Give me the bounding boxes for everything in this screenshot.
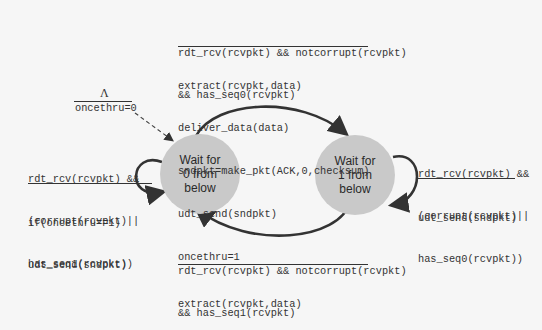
action-line: udt_send(sndpkt) [418, 211, 517, 225]
left-self-loop-separator [28, 183, 152, 184]
action-line: if(oncethru==1) [28, 216, 127, 230]
action-line: extract(rcvpkt,data) [178, 79, 370, 93]
arrow-wait1-self [393, 156, 417, 205]
arrow-wait0-self [136, 160, 162, 193]
action-line: udt_send(sndpkt) [28, 258, 127, 272]
right-self-loop-separator [418, 178, 515, 179]
initial-arrow [135, 113, 172, 140]
top-transition-separator [178, 46, 368, 47]
action-line: deliver_data(data) [178, 121, 370, 135]
initial-action: oncethru=0 [75, 101, 137, 115]
initial-event: Λ [100, 86, 109, 101]
condition-line: has_seq0(rcvpkt)) [418, 252, 529, 266]
action-line: extract(rcvpkt,data) [178, 297, 370, 311]
action-line: sndpkt=make_pkt(ACK,0,checksum) [178, 164, 370, 178]
left-self-loop-actions: if(oncethru==1) udt_send(sndpkt) [28, 187, 127, 287]
bottom-transition-actions: extract(rcvpkt,data) deliver_data(data) … [178, 268, 370, 330]
bottom-transition-separator [178, 264, 368, 265]
right-self-loop-actions: udt_send(sndpkt) [418, 182, 517, 239]
action-line: udt_send(sndpkt) [178, 207, 370, 221]
